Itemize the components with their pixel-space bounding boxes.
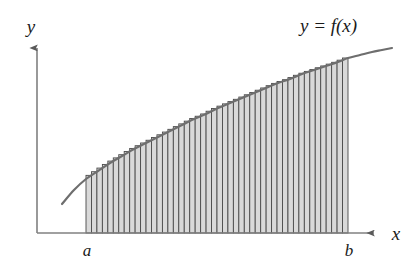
- lower-bound-label: a: [83, 241, 92, 260]
- riemann-rectangle: [113, 158, 118, 233]
- riemann-rectangle: [201, 114, 206, 233]
- riemann-rectangle: [212, 109, 217, 234]
- riemann-rectangle: [157, 135, 162, 233]
- riemann-rectangle: [168, 129, 173, 233]
- riemann-rectangle: [108, 161, 113, 233]
- riemann-rectangle: [162, 132, 167, 233]
- riemann-rectangle: [310, 70, 315, 233]
- riemann-rectangle: [146, 140, 151, 233]
- riemann-rectangle: [315, 68, 320, 233]
- riemann-rectangle: [261, 88, 266, 233]
- riemann-rectangle: [266, 86, 271, 233]
- riemann-rectangle: [239, 97, 244, 233]
- y-axis-label: y: [25, 16, 36, 37]
- riemann-rectangle: [255, 90, 260, 233]
- riemann-rectangle: [141, 143, 146, 233]
- function-label: y = f(x): [298, 15, 357, 37]
- riemann-rectangle: [190, 119, 195, 233]
- riemann-rectangle: [277, 82, 282, 234]
- riemann-sum-figure: y x a b y = f(x): [0, 0, 419, 268]
- riemann-rectangle: [91, 172, 96, 233]
- riemann-rectangle: [283, 80, 288, 233]
- riemann-rectangle: [135, 146, 140, 233]
- riemann-rectangles: [86, 58, 348, 233]
- riemann-rectangle: [321, 66, 326, 233]
- x-axis-label: x: [391, 223, 401, 244]
- riemann-rectangle: [244, 95, 249, 233]
- riemann-rectangle: [119, 155, 124, 233]
- riemann-rectangle: [304, 71, 309, 233]
- riemann-rectangle: [206, 111, 211, 233]
- riemann-rectangle: [97, 168, 102, 233]
- riemann-rectangle: [299, 73, 304, 233]
- riemann-rectangle: [86, 175, 91, 233]
- riemann-rectangle: [184, 121, 189, 233]
- riemann-rectangle: [293, 75, 298, 233]
- riemann-rectangle: [228, 102, 233, 233]
- riemann-rectangle: [195, 116, 200, 233]
- riemann-rectangle: [124, 152, 129, 233]
- riemann-rectangle: [152, 138, 157, 233]
- figure-canvas: y x a b y = f(x): [0, 0, 419, 268]
- riemann-rectangle: [173, 127, 178, 233]
- riemann-rectangle: [179, 124, 184, 233]
- upper-bound-label: b: [345, 241, 354, 260]
- riemann-rectangle: [326, 64, 331, 233]
- riemann-rectangle: [250, 93, 255, 234]
- riemann-rectangle: [217, 106, 222, 233]
- riemann-rectangle: [222, 104, 227, 233]
- riemann-rectangle: [343, 58, 348, 233]
- riemann-rectangle: [332, 62, 337, 233]
- riemann-rectangle: [288, 78, 293, 233]
- riemann-rectangle: [337, 60, 342, 233]
- riemann-rectangle: [102, 164, 107, 233]
- riemann-rectangle: [233, 99, 238, 233]
- riemann-rectangle: [130, 148, 135, 233]
- riemann-rectangle: [272, 83, 277, 233]
